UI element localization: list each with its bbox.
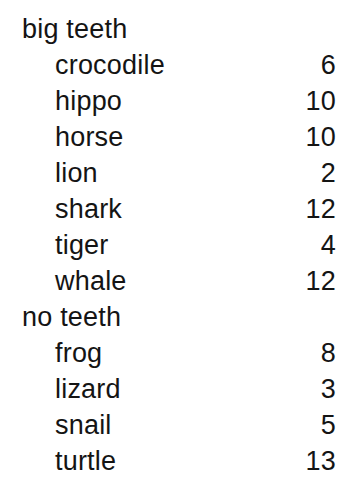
dot-leader: [125, 146, 298, 147]
entry-label: lion: [55, 155, 98, 191]
entry-label: snail: [55, 407, 112, 443]
list-item: whale 12: [22, 263, 336, 299]
dot-leader: [166, 74, 298, 75]
list-item: lizard 3: [22, 371, 336, 407]
dot-leader: [122, 398, 298, 399]
entry-count: 12: [299, 191, 336, 227]
dot-leader: [123, 218, 298, 219]
entry-label: shark: [55, 191, 122, 227]
list-item: crocodile 6: [22, 47, 336, 83]
group-no-teeth: no teeth frog 8 lizard 3 snail 5: [22, 299, 336, 479]
list-item: shark 12: [22, 191, 336, 227]
index-page: big teeth crocodile 6 hippo 10 horse 10: [0, 0, 357, 482]
entry-count: 13: [299, 443, 336, 479]
entry-label: tiger: [55, 227, 109, 263]
entries-no-teeth: frog 8 lizard 3 snail 5 turtle: [22, 335, 336, 479]
entry-label: horse: [55, 119, 124, 155]
entry-label: frog: [55, 335, 102, 371]
index-list: big teeth crocodile 6 hippo 10 horse 10: [22, 11, 336, 479]
entry-label: crocodile: [55, 47, 165, 83]
entry-label: lizard: [55, 371, 121, 407]
entry-label: whale: [55, 263, 127, 299]
dot-leader: [117, 470, 298, 471]
entry-count: 10: [299, 119, 336, 155]
list-item: tiger 4: [22, 227, 336, 263]
entry-count: 5: [299, 407, 336, 443]
dot-leader: [128, 290, 298, 291]
entry-label: hippo: [55, 83, 122, 119]
list-item: hippo 10: [22, 83, 336, 119]
group-big-teeth: big teeth crocodile 6 hippo 10 horse 10: [22, 11, 336, 299]
entry-count: 4: [299, 227, 336, 263]
dot-leader: [123, 110, 298, 111]
dot-leader: [113, 434, 298, 435]
entry-count: 12: [299, 263, 336, 299]
entry-count: 6: [299, 47, 336, 83]
entry-count: 3: [299, 371, 336, 407]
list-item: turtle 13: [22, 443, 336, 479]
entry-count: 2: [299, 155, 336, 191]
dot-leader: [99, 182, 298, 183]
list-item: frog 8: [22, 335, 336, 371]
list-item: horse 10: [22, 119, 336, 155]
entry-label: turtle: [55, 443, 116, 479]
entries-big-teeth: crocodile 6 hippo 10 horse 10 lion: [22, 47, 336, 299]
dot-leader: [103, 362, 298, 363]
list-item: snail 5: [22, 407, 336, 443]
dot-leader: [110, 254, 298, 255]
group-heading-big-teeth: big teeth: [22, 11, 336, 47]
entry-count: 10: [299, 83, 336, 119]
list-item: lion 2: [22, 155, 336, 191]
group-heading-no-teeth: no teeth: [22, 299, 336, 335]
entry-count: 8: [299, 335, 336, 371]
